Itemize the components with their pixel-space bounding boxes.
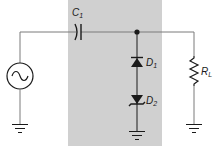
resistor-icon xyxy=(190,56,198,86)
ground-icon xyxy=(186,125,202,133)
circuit-diagram: C1 D1 D2 RL xyxy=(0,0,215,149)
rl-label: RL xyxy=(201,66,212,78)
highlight-box xyxy=(68,0,162,146)
ground-icon xyxy=(12,125,28,133)
ac-source-icon xyxy=(7,63,33,89)
